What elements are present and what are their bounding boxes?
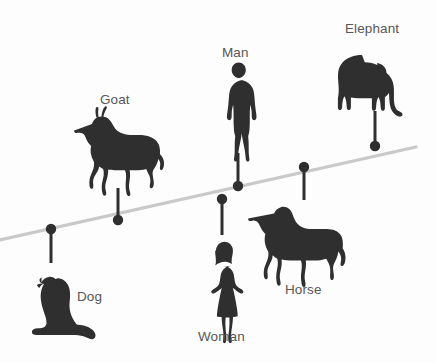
elephant-silhouette: [338, 55, 403, 117]
marker-dot-horse: [299, 162, 309, 172]
goat-silhouette: [74, 106, 164, 196]
marker-dot-elephant: [370, 141, 380, 151]
woman-silhouette: [211, 242, 243, 343]
label-man: Man: [222, 46, 249, 60]
trend-line: [0, 147, 416, 240]
label-goat: Goat: [100, 93, 130, 107]
datapoint-man[interactable]: [227, 63, 257, 192]
label-elephant: Elephant: [345, 22, 399, 36]
marker-dot-woman: [217, 194, 227, 204]
marker-dot-goat: [113, 215, 123, 225]
label-woman: Woman: [198, 330, 245, 344]
marker-dot-dog: [46, 224, 56, 234]
datapoint-elephant[interactable]: [338, 55, 403, 151]
plot-canvas: [0, 0, 437, 363]
horse-silhouette: [248, 207, 345, 287]
label-horse: Horse: [285, 283, 322, 297]
label-dog: Dog: [77, 290, 102, 304]
datapoint-woman[interactable]: [211, 194, 243, 343]
datapoint-dog[interactable]: [32, 224, 96, 339]
scatter-plot-figure: Elephant Man Goat Horse Dog Woman: [0, 0, 437, 363]
marker-dot-man: [233, 181, 243, 191]
man-silhouette: [227, 63, 257, 162]
dog-silhouette: [32, 277, 96, 339]
